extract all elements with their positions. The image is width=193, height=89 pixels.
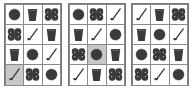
grid-cell[interactable] — [132, 64, 152, 85]
cup-icon — [25, 7, 40, 22]
grid-cell[interactable] — [87, 4, 107, 25]
grid-cell[interactable] — [169, 4, 189, 25]
pretzel-icon — [71, 47, 86, 62]
grid-cell[interactable] — [23, 24, 43, 45]
grid-cell[interactable] — [106, 24, 126, 45]
club-icon — [7, 67, 22, 82]
pretzel-icon — [25, 67, 40, 82]
club-icon — [25, 27, 40, 42]
grid-cell[interactable] — [169, 24, 189, 45]
grid-cell[interactable] — [169, 64, 189, 85]
ball-icon — [134, 47, 149, 62]
ball-icon — [152, 27, 167, 42]
grid-cell[interactable] — [5, 24, 25, 45]
club-icon — [108, 7, 123, 22]
grid-cell[interactable] — [42, 4, 62, 25]
cup-icon — [152, 7, 167, 22]
cup-icon — [134, 27, 149, 42]
grid-cell[interactable] — [87, 24, 107, 45]
cup-icon — [108, 47, 123, 62]
ball-icon — [25, 47, 40, 62]
ball-icon — [44, 67, 59, 82]
grid-cell[interactable] — [42, 24, 62, 45]
club-icon — [134, 7, 149, 22]
pretzel-icon — [171, 7, 186, 22]
panel-3 — [131, 3, 189, 86]
grid-cell[interactable] — [150, 64, 170, 85]
grid-cell[interactable] — [42, 64, 62, 85]
grid-cell[interactable] — [106, 64, 126, 85]
grid-cell[interactable] — [106, 4, 126, 25]
grid-cell[interactable] — [23, 44, 43, 65]
grid-cell[interactable] — [42, 44, 62, 65]
cup-icon — [71, 27, 86, 42]
grid-cell[interactable] — [5, 44, 25, 65]
grid-cell[interactable] — [132, 4, 152, 25]
ball-icon — [171, 67, 186, 82]
grid-cell[interactable] — [150, 4, 170, 25]
panel-1 — [4, 3, 62, 86]
ball-icon — [71, 7, 86, 22]
pretzel-icon — [7, 27, 22, 42]
club-icon — [44, 47, 59, 62]
pretzel-icon — [44, 7, 59, 22]
grid-cell[interactable] — [87, 64, 107, 85]
cup-icon — [7, 47, 22, 62]
grid-cell[interactable] — [5, 64, 25, 85]
ball-icon — [89, 47, 104, 62]
pretzel-icon — [89, 7, 104, 22]
grid-cell[interactable] — [69, 24, 89, 45]
pretzel-icon — [152, 47, 167, 62]
grid-cell[interactable] — [132, 44, 152, 65]
club-icon — [152, 67, 167, 82]
pretzel-icon — [134, 67, 149, 82]
grid-cell[interactable] — [169, 44, 189, 65]
grid-cell[interactable] — [69, 4, 89, 25]
ball-icon — [108, 27, 123, 42]
club-icon — [171, 27, 186, 42]
grid-cell[interactable] — [106, 44, 126, 65]
grid-cell[interactable] — [150, 44, 170, 65]
club-icon — [89, 27, 104, 42]
grid-cell[interactable] — [5, 4, 25, 25]
grid-cell[interactable] — [132, 24, 152, 45]
club-icon — [71, 67, 86, 82]
pretzel-icon — [108, 67, 123, 82]
cup-icon — [89, 67, 104, 82]
cup-icon — [171, 47, 186, 62]
grid-cell[interactable] — [69, 44, 89, 65]
grid-cell[interactable] — [69, 64, 89, 85]
grid-cell[interactable] — [23, 4, 43, 25]
ball-icon — [7, 7, 22, 22]
panel-2 — [68, 3, 126, 86]
cup-icon — [44, 27, 59, 42]
grid-cell[interactable] — [87, 44, 107, 65]
grid-cell[interactable] — [150, 24, 170, 45]
grid-cell[interactable] — [23, 64, 43, 85]
